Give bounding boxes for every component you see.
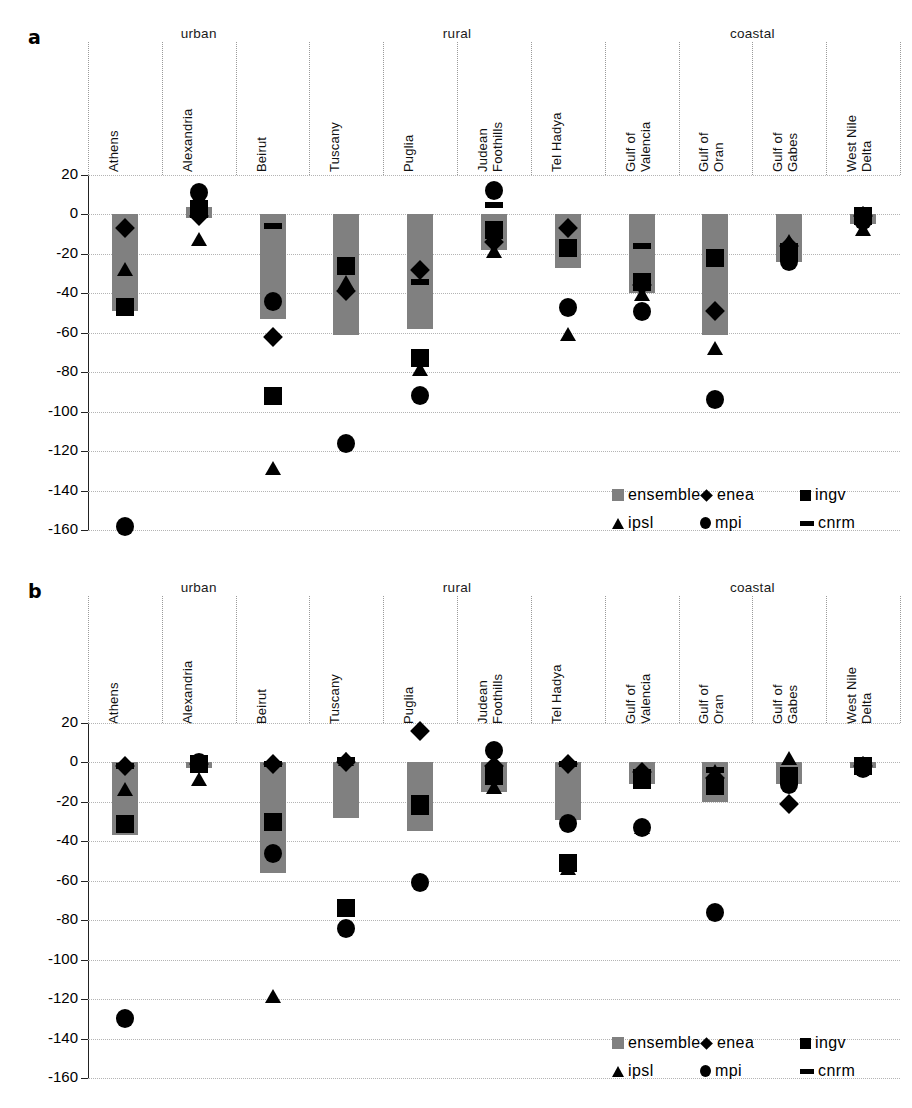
column-separator <box>457 42 458 175</box>
category-label-athens: Athens <box>107 612 122 724</box>
column-separator <box>752 42 753 175</box>
triangle-icon <box>612 1066 624 1077</box>
marker-ipsl-judean-foothills <box>486 244 502 258</box>
legend-item-mpi[interactable]: mpi <box>700 514 742 532</box>
marker-ipsl-tel-hadya <box>560 861 576 875</box>
legend-label-enea: enea <box>717 1034 754 1052</box>
legend-label-mpi: mpi <box>715 514 742 532</box>
marker-mpi-beirut <box>264 844 282 863</box>
column-separator <box>88 596 89 723</box>
y-tick-label: -20 <box>20 792 78 809</box>
y-tick-label: -120 <box>20 441 78 458</box>
category-label-athens: Athens <box>107 60 122 172</box>
column-separator <box>309 42 310 175</box>
dash-icon <box>800 521 814 526</box>
legend-label-cnrm: cnrm <box>818 1062 855 1080</box>
y-tick-label: -20 <box>20 244 78 261</box>
gridline <box>88 175 900 176</box>
category-label-alexandria: Alexandria <box>181 60 196 172</box>
gridline <box>88 293 900 294</box>
category-label-west-nile-delta: West Nile Delta <box>845 60 874 172</box>
category-label-beirut: Beirut <box>255 612 270 724</box>
legend-item-cnrm[interactable]: cnrm <box>800 514 855 532</box>
marker-cnrm-tuscany <box>337 757 355 763</box>
legend-label-ensemble: ensemble <box>628 486 701 504</box>
category-label-alexandria: Alexandria <box>181 612 196 724</box>
category-label-gulf-of-gabes: Gulf of Gabes <box>771 60 800 172</box>
y-tick-label: -100 <box>20 402 78 419</box>
gridline <box>88 881 900 882</box>
category-label-puglia: Puglia <box>402 60 417 172</box>
y-tick-label: -80 <box>20 910 78 927</box>
diamond-icon <box>700 489 713 502</box>
y-tick <box>81 920 88 921</box>
y-tick <box>81 1078 88 1079</box>
gridline <box>88 491 900 492</box>
y-tick <box>81 881 88 882</box>
column-separator <box>309 596 310 723</box>
y-tick-label: -40 <box>20 831 78 848</box>
marker-ipsl-puglia <box>412 362 428 376</box>
marker-ingv-athens <box>116 815 134 833</box>
marker-ipsl-alexandria <box>191 772 207 786</box>
marker-ipsl-beirut <box>265 461 281 475</box>
category-label-tel-hadya: Tel Hadya <box>550 60 565 172</box>
marker-mpi-gulf-of-valencia <box>633 302 651 321</box>
group-label-coastal: coastal <box>605 26 900 41</box>
marker-ipsl-tel-hadya <box>560 327 576 341</box>
y-tick <box>81 960 88 961</box>
marker-mpi-tel-hadya <box>559 298 577 317</box>
gridline <box>88 530 900 531</box>
marker-cnrm-tel-hadya <box>559 761 577 767</box>
legend-item-enea[interactable]: enea <box>700 486 754 504</box>
marker-cnrm-gulf-of-valencia <box>633 243 651 249</box>
marker-ingv-beirut <box>264 387 282 405</box>
column-separator <box>236 42 237 175</box>
legend-item-enea[interactable]: enea <box>700 1034 754 1052</box>
category-label-puglia: Puglia <box>402 612 417 724</box>
marker-ipsl-tuscany <box>338 275 354 289</box>
square-icon <box>800 1038 811 1049</box>
category-label-gulf-of-valencia: Gulf of Valencia <box>624 60 653 172</box>
legend-item-mpi[interactable]: mpi <box>700 1062 742 1080</box>
gridline <box>88 1078 900 1079</box>
marker-cnrm-athens <box>116 300 134 306</box>
legend-label-ipsl: ipsl <box>628 514 654 532</box>
y-tick <box>81 491 88 492</box>
gridline <box>88 372 900 373</box>
y-tick-label: -160 <box>20 520 78 537</box>
column-separator <box>457 596 458 723</box>
gridline <box>88 802 900 803</box>
marker-cnrm-beirut <box>264 223 282 229</box>
marker-ipsl-athens <box>117 262 133 276</box>
group-label-urban: urban <box>88 580 309 595</box>
marker-mpi-tuscany <box>337 434 355 453</box>
marker-cnrm-tel-hadya <box>559 249 577 255</box>
legend-label-mpi: mpi <box>715 1062 742 1080</box>
legend-item-ipsl[interactable]: ipsl <box>612 1062 654 1080</box>
marker-ipsl-gulf-of-valencia <box>634 287 650 301</box>
y-tick <box>81 412 88 413</box>
category-label-gulf-of-oran: Gulf of Oran <box>697 612 726 724</box>
legend-item-ensemble[interactable]: ensemble <box>612 486 701 504</box>
legend-item-ipsl[interactable]: ipsl <box>612 514 654 532</box>
legend-item-ensemble[interactable]: ensemble <box>612 1034 701 1052</box>
marker-mpi-alexandria <box>190 183 208 202</box>
legend-label-ingv: ingv <box>815 1034 846 1052</box>
marker-mpi-tel-hadya <box>559 814 577 833</box>
legend-item-ingv[interactable]: ingv <box>800 1034 846 1052</box>
legend-item-cnrm[interactable]: cnrm <box>800 1062 855 1080</box>
ensemble-icon <box>612 489 624 501</box>
y-tick <box>81 372 88 373</box>
y-axis-line <box>88 723 89 1078</box>
y-tick <box>81 723 88 724</box>
marker-cnrm-alexandria <box>190 765 208 771</box>
y-tick-label: -60 <box>20 871 78 888</box>
group-label-rural: rural <box>309 580 604 595</box>
legend-label-enea: enea <box>717 486 754 504</box>
legend-item-ingv[interactable]: ingv <box>800 486 846 504</box>
legend-label-cnrm: cnrm <box>818 514 855 532</box>
column-separator <box>752 596 753 723</box>
marker-ipsl-athens <box>117 782 133 796</box>
marker-ipsl-alexandria <box>191 232 207 246</box>
